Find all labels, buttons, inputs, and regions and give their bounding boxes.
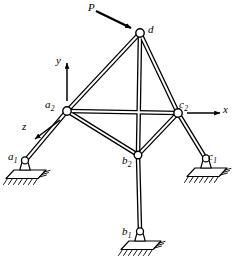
- member-d-c2-core: [140, 33, 178, 113]
- node-label-a1: a1: [8, 151, 17, 162]
- member-d-a2-core: [67, 33, 140, 111]
- node-label-b2: b2: [122, 155, 131, 166]
- load-label-P: P: [88, 2, 95, 13]
- axis-label-y: y: [56, 55, 61, 66]
- axis-label-z: z: [22, 121, 26, 132]
- member-cores: [25, 33, 206, 232]
- node-label-d: d: [148, 24, 154, 35]
- member-c2-c1-core: [178, 113, 206, 159]
- truss-figure: P y x z d a2 c2 b2 a1 c1 b1: [0, 0, 235, 262]
- member-b2-c2-core: [138, 113, 178, 155]
- node-label-a2: a2: [45, 99, 54, 110]
- node-label-c2: c2: [179, 99, 188, 110]
- node-b2: [134, 151, 142, 159]
- member-a2-b2-core: [67, 111, 138, 155]
- node-label-b1: b1: [122, 226, 131, 237]
- member-outlines: [25, 33, 206, 232]
- node-label-c1: c1: [208, 151, 217, 162]
- truss-drawing: [0, 0, 235, 262]
- load-arrow-P: [96, 11, 131, 28]
- node-a2: [63, 107, 71, 115]
- member-a2-a1-core: [25, 111, 67, 161]
- axis-label-x: x: [223, 104, 228, 115]
- node-c2: [174, 109, 182, 117]
- node-d: [136, 29, 144, 37]
